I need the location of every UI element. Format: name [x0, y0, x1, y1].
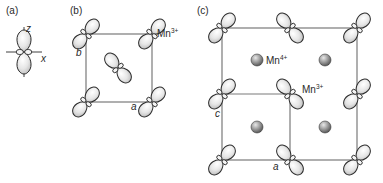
mn4-sphere-icon — [251, 54, 263, 66]
orbital-icon — [102, 50, 134, 85]
a-axis-label: a — [131, 101, 137, 112]
a-axis-label: a — [273, 161, 279, 172]
z-axis-label: z — [25, 23, 31, 34]
mn4-sphere-icon — [319, 54, 331, 66]
panel-c-label: (c) — [197, 5, 209, 16]
panel-a: (a) z x — [6, 5, 47, 77]
x-axis-label: x — [40, 53, 47, 64]
orbital-ordering-figure: (a) z x (b) b a Mn3+ (c) — [0, 0, 383, 183]
b-axis-label: b — [76, 47, 82, 58]
panel-b-label: (b) — [70, 5, 82, 16]
dz2-orbital-icon — [16, 30, 32, 74]
mn3-label: Mn3+ — [302, 83, 324, 95]
panel-c: (c) Mn4+ Mn3+ c a — [197, 5, 373, 178]
panel-b: (b) b a Mn3+ — [70, 5, 179, 120]
mn3-label: Mn3+ — [157, 27, 179, 39]
c-axis-label: c — [215, 108, 220, 119]
panel-a-label: (a) — [6, 5, 18, 16]
mn4-sphere-icon — [251, 121, 263, 133]
mn4-label: Mn4+ — [266, 54, 288, 66]
mn4-sphere-icon — [319, 121, 331, 133]
